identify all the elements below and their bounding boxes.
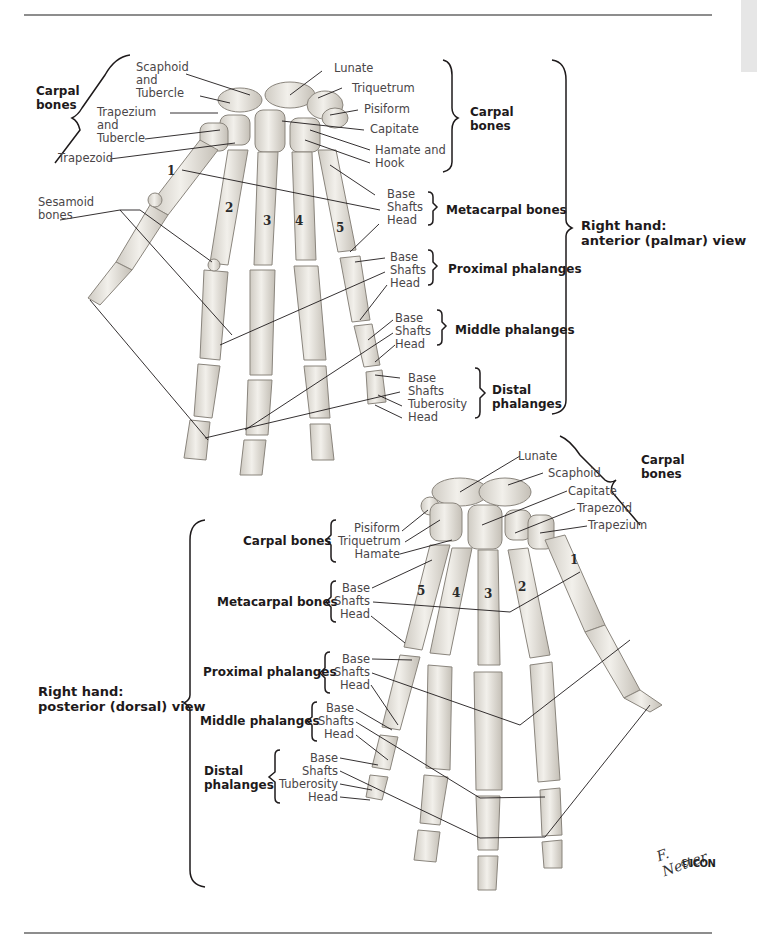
ant-meta-head: Head <box>387 214 417 227</box>
label-lunate: Lunate <box>334 62 373 75</box>
ant-distal-group: Distal phalanges <box>492 383 562 411</box>
anterior-view-title: Right hand: anterior (palmar) view <box>581 218 746 248</box>
post-prox-head: Head <box>330 679 370 692</box>
post-label-lunate: Lunate <box>518 450 557 463</box>
label-sesamoid-bones: Sesamoid bones <box>38 196 94 222</box>
ant-digit-3: 3 <box>263 214 271 228</box>
post-label-trapezium: Trapezium <box>588 519 647 532</box>
post-distal-group: Distal phalanges <box>204 764 274 792</box>
post-middle-group: Middle phalanges <box>200 714 320 728</box>
post-meta-head: Head <box>330 608 370 621</box>
label-scaphoid-tubercle: Tubercle <box>136 87 184 100</box>
label-triquetrum: Triquetrum <box>352 82 415 95</box>
post-digit-1: 1 <box>570 553 578 567</box>
ant-digit-1: 1 <box>167 164 175 178</box>
publisher-logo: ©ICON <box>680 858 715 869</box>
label-trapezoid: Trapezoid <box>58 152 113 165</box>
label-trapezium-tubercle: Tubercle <box>97 132 145 145</box>
ant-mid-head: Head <box>395 338 425 351</box>
ant-carpal-group-left: Carpal bones <box>36 84 80 112</box>
post-digit-2: 2 <box>518 580 526 594</box>
label-capitate: Capitate <box>370 123 419 136</box>
posterior-view-title: Right hand: posterior (dorsal) view <box>38 684 206 714</box>
post-digit-5: 5 <box>417 584 425 598</box>
ant-digit-4: 4 <box>295 214 303 228</box>
post-carpal-group-left: Carpal bones <box>243 534 331 548</box>
post-digit-4: 4 <box>452 586 460 600</box>
ant-middle-group: Middle phalanges <box>455 323 575 337</box>
posterior-hand <box>366 478 662 890</box>
ant-prox-head: Head <box>390 277 420 290</box>
ant-proximal-group: Proximal phalanges <box>448 262 582 276</box>
label-pisiform: Pisiform <box>364 103 410 116</box>
post-label-hamate: Hamate <box>342 548 400 561</box>
ant-digit-5: 5 <box>336 221 344 235</box>
post-dist-head: Head <box>280 791 338 804</box>
label-hook: Hook <box>375 157 404 170</box>
post-mid-head: Head <box>314 728 354 741</box>
ant-dist-head: Head <box>408 411 438 424</box>
post-label-capitate: Capitate <box>568 485 617 498</box>
post-digit-3: 3 <box>484 587 492 601</box>
ant-carpal-group-right: Carpal bones <box>470 105 514 133</box>
post-proximal-group: Proximal phalanges <box>203 665 337 679</box>
post-metacarpal-group: Metacarpal bones <box>217 595 338 609</box>
post-label-scaphoid: Scaphoid <box>548 467 601 480</box>
post-label-trapezoid: Trapezoid <box>577 502 632 515</box>
ant-metacarpal-group: Metacarpal bones <box>446 203 567 217</box>
ant-digit-2: 2 <box>225 201 233 215</box>
post-carpal-group-right: Carpal bones <box>641 453 685 481</box>
artist-signature: F. Netter ©ICON <box>658 838 718 874</box>
